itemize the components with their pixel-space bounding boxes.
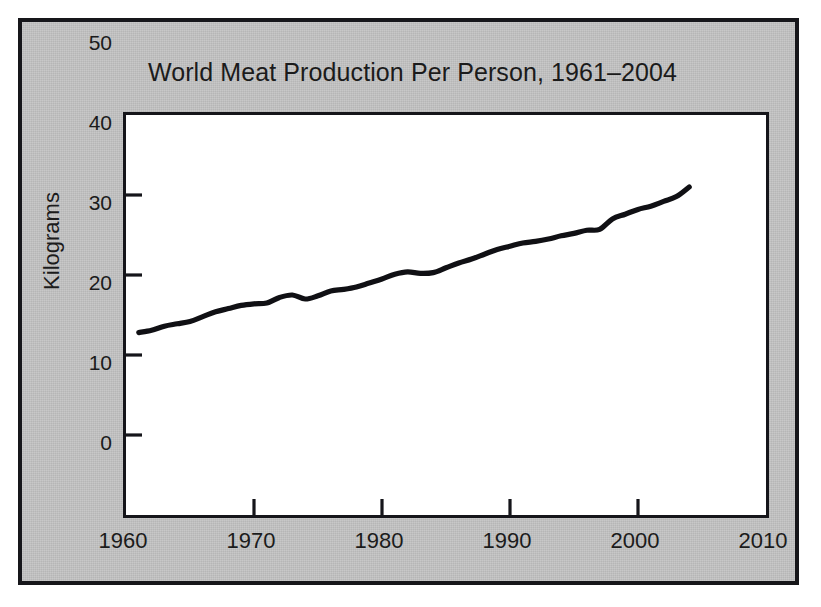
y-tick-label-50: 50 bbox=[16, 31, 112, 55]
y-tick-label-40: 40 bbox=[16, 111, 112, 135]
x-tick-label-2000: 2000 bbox=[595, 528, 675, 554]
y-axis-title: Kilograms bbox=[39, 151, 65, 331]
chart-figure: World Meat Production Per Person, 1961–2… bbox=[18, 18, 799, 585]
plot-svg bbox=[126, 115, 766, 515]
y-tick-label-0: 0 bbox=[16, 431, 112, 455]
y-tick-label-10: 10 bbox=[16, 351, 112, 375]
x-tick-label-1990: 1990 bbox=[467, 528, 547, 554]
x-tick-label-1980: 1980 bbox=[339, 528, 419, 554]
chart-title: World Meat Production Per Person, 1961–2… bbox=[22, 58, 803, 87]
x-tick-label-1970: 1970 bbox=[211, 528, 291, 554]
plot-area bbox=[123, 112, 769, 518]
y-tick-label-20: 20 bbox=[16, 271, 112, 295]
axis-ticks bbox=[126, 195, 638, 515]
x-tick-label-1960: 1960 bbox=[83, 528, 163, 554]
data-series-line bbox=[139, 187, 689, 333]
x-tick-label-2010: 2010 bbox=[723, 528, 803, 554]
y-tick-label-30: 30 bbox=[16, 191, 112, 215]
